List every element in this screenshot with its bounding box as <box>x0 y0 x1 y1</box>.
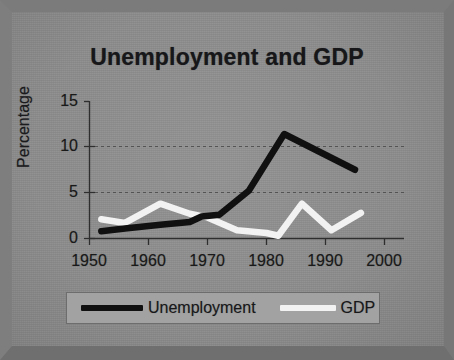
legend-label-unemployment: Unemployment <box>148 299 256 317</box>
axes <box>84 101 404 245</box>
chart-legend: Unemployment GDP <box>66 292 380 324</box>
legend-swatch-unemployment-icon <box>81 305 143 311</box>
x-tick-label-1950: 1950 <box>61 252 117 270</box>
legend-item-gdp: GDP <box>256 299 376 317</box>
x-tick-label-1990: 1990 <box>297 252 353 270</box>
x-tick-label-1980: 1980 <box>238 252 294 270</box>
y-tick-label-10: 10 <box>44 137 78 155</box>
y-tick-label-5: 5 <box>44 183 78 201</box>
x-tick-label-1970: 1970 <box>179 252 235 270</box>
legend-label-gdp: GDP <box>341 299 376 317</box>
legend-item-unemployment: Unemployment <box>67 299 256 317</box>
x-tick-label-2000: 2000 <box>356 252 412 270</box>
chart-figure: Unemployment and GDP Percentage <box>0 0 454 360</box>
x-tick-label-1960: 1960 <box>120 252 176 270</box>
y-tick-label-0: 0 <box>44 229 78 247</box>
legend-swatch-gdp-icon <box>280 305 336 311</box>
y-tick-label-15: 15 <box>44 92 78 110</box>
